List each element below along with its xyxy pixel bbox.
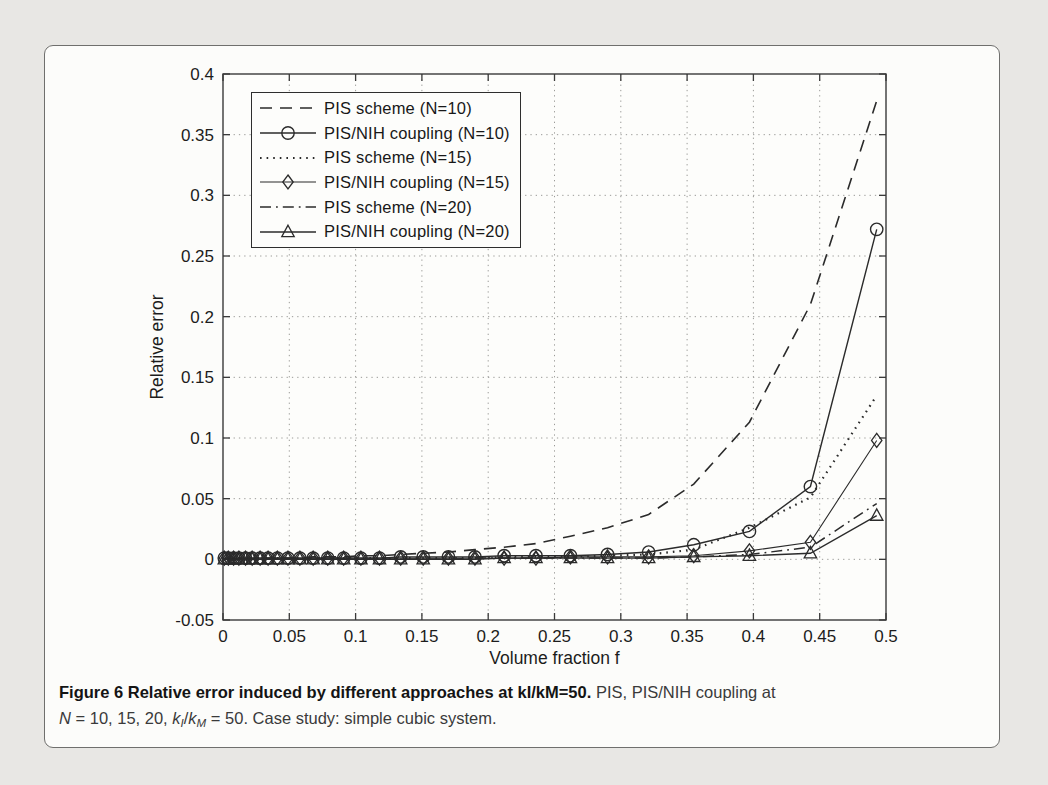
y-tick-label: 0.35	[181, 126, 214, 145]
legend-label: PIS scheme (N=10)	[324, 99, 472, 118]
caption-segment: = 50. Case study: simple cubic system.	[206, 709, 496, 727]
legend-label: PIS/NIH coupling (N=10)	[324, 124, 510, 143]
legend-line-sample-diamond-solid	[257, 171, 319, 193]
x-tick-label: 0	[218, 627, 227, 646]
caption-segment: = 10, 15, 20,	[71, 709, 172, 727]
caption-segment: k	[188, 709, 196, 727]
legend-label: PIS/NIH coupling (N=20)	[324, 222, 510, 241]
legend-line-sample-none-dotted	[257, 147, 319, 169]
x-tick-label: 0.35	[671, 627, 704, 646]
y-tick-label: 0.2	[190, 308, 214, 327]
legend-item-5: PIS/NIH coupling (N=20)	[257, 219, 510, 244]
x-tick-label: 0.2	[476, 627, 500, 646]
y-tick-label: 0	[205, 550, 214, 569]
x-tick-label: 0.45	[803, 627, 836, 646]
x-tick-label: 0.05	[273, 627, 306, 646]
caption-segment: PIS, PIS/NIH coupling at	[591, 683, 775, 701]
legend-item-1: PIS/NIH coupling (N=10)	[257, 121, 510, 146]
y-tick-label: 0.25	[181, 247, 214, 266]
caption-segment: Figure 6 Relative error induced by diffe…	[59, 683, 591, 701]
chart-legend: PIS scheme (N=10)PIS/NIH coupling (N=10)…	[251, 92, 521, 248]
y-tick-label: 0.4	[190, 65, 214, 84]
chart-area: 00.050.10.150.20.250.30.350.40.450.5-0.0…	[45, 46, 999, 671]
legend-label: PIS scheme (N=20)	[324, 198, 472, 217]
legend-item-0: PIS scheme (N=10)	[257, 96, 510, 121]
legend-item-2: PIS scheme (N=15)	[257, 145, 510, 170]
y-tick-label: 0.05	[181, 490, 214, 509]
y-axis-label: Relative error	[147, 294, 167, 399]
page-background: { "figure": { "caption_segments": [ {"te…	[0, 0, 1048, 785]
legend-line-sample-none-dashed	[257, 97, 319, 119]
legend-item-4: PIS scheme (N=20)	[257, 195, 510, 220]
legend-line-sample-triangle-solid	[257, 221, 319, 243]
y-tick-label: 0.15	[181, 368, 214, 387]
x-tick-label: 0.1	[344, 627, 368, 646]
legend-line-sample-circle-solid	[257, 122, 319, 144]
x-tick-label: 0.5	[874, 627, 898, 646]
x-tick-label: 0.15	[405, 627, 438, 646]
legend-item-3: PIS/NIH coupling (N=15)	[257, 170, 510, 195]
y-tick-label: -0.05	[175, 611, 214, 630]
figure-caption: Figure 6 Relative error induced by diffe…	[59, 679, 965, 736]
x-axis-label: Volume fraction f	[489, 648, 619, 668]
legend-label: PIS scheme (N=15)	[324, 148, 472, 167]
x-tick-label: 0.3	[609, 627, 633, 646]
legend-line-sample-none-dashdot	[257, 196, 319, 218]
legend-label: PIS/NIH coupling (N=15)	[324, 173, 510, 192]
chart-plot: 00.050.10.150.20.250.30.350.40.450.5-0.0…	[45, 46, 999, 671]
x-tick-label: 0.4	[742, 627, 766, 646]
figure-panel: 00.050.10.150.20.250.30.350.40.450.5-0.0…	[44, 45, 1000, 748]
caption-segment: k	[172, 709, 180, 727]
y-tick-label: 0.1	[190, 429, 214, 448]
y-tick-label: 0.3	[190, 186, 214, 205]
caption-segment: M	[197, 717, 207, 729]
caption-segment: N	[59, 709, 71, 727]
x-tick-label: 0.25	[538, 627, 571, 646]
